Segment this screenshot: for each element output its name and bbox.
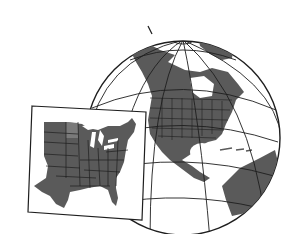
inset-map xyxy=(28,106,146,220)
globe-axis xyxy=(148,26,152,34)
minnesota-lighter xyxy=(66,122,78,138)
globe-illustration xyxy=(0,0,293,234)
